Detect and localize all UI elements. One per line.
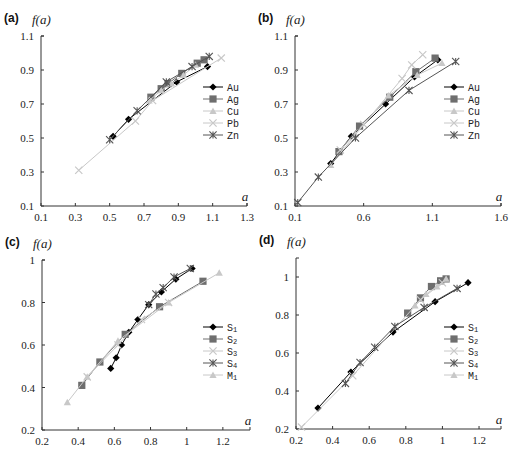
- panel-label: (d): [259, 233, 274, 247]
- legend-marker: [209, 83, 216, 90]
- y-tick-label: 0.3: [274, 166, 288, 178]
- y-tick-label: 1.1: [20, 30, 34, 42]
- series-s2: [78, 278, 206, 389]
- x-tick-label: 0.3: [68, 211, 82, 223]
- legend-label: Cu: [227, 107, 239, 118]
- legend-label: S4: [227, 359, 237, 370]
- y-tick-label: 0.6: [21, 339, 35, 351]
- legend-marker: [209, 335, 216, 342]
- y-tick-label: 0.2: [21, 424, 35, 436]
- legend-item: Ag: [203, 95, 239, 106]
- chart-panel-c: (c)f(a)0.20.40.60.811.20.20.40.60.81aS1S…: [5, 235, 252, 447]
- y-tick-label: 0.7: [20, 98, 34, 110]
- legend-item: Zn: [444, 131, 480, 142]
- x-tick-label: 1.3: [240, 211, 254, 223]
- legend-item: S2: [444, 335, 478, 346]
- data-point-marker: [419, 51, 426, 58]
- legend-label: Ag: [468, 95, 480, 106]
- series-line: [345, 288, 457, 383]
- data-point-marker: [342, 380, 349, 387]
- legend-item: Ag: [444, 95, 480, 106]
- legend-item: Pb: [203, 119, 239, 130]
- x-tick-label: 0.2: [289, 434, 303, 446]
- data-point-marker: [399, 75, 406, 82]
- series-s1: [314, 279, 471, 412]
- legend-item: Zn: [203, 131, 239, 142]
- x-tick-label: 0.6: [357, 211, 371, 223]
- legend-item: Cu: [444, 107, 480, 118]
- legend: AuAgCuPbZn: [203, 83, 239, 142]
- series-line: [67, 273, 219, 403]
- series-pb: [75, 55, 225, 174]
- y-axis-title: f(a): [286, 12, 305, 27]
- data-point-marker: [405, 87, 412, 94]
- x-tick-label: 0.1: [288, 211, 302, 223]
- data-point-marker: [464, 279, 471, 286]
- y-tick-label: 0.9: [274, 64, 288, 76]
- series-line: [298, 62, 456, 203]
- data-point-marker: [152, 290, 159, 297]
- data-point-marker: [132, 117, 139, 124]
- legend-item: S3: [444, 347, 478, 358]
- legend-marker: [209, 323, 216, 330]
- y-axis-title: f(a): [33, 236, 52, 251]
- y-tick-label: 1: [284, 271, 290, 283]
- series-s3: [298, 279, 446, 431]
- x-tick-label: 1.1: [206, 211, 220, 223]
- chart-panel-d: (d)f(a)0.20.40.60.811.20.20.40.60.81aS1S…: [259, 233, 503, 446]
- series-line: [87, 303, 168, 377]
- x-tick-label: 1.2: [472, 434, 486, 446]
- y-axis-title: f(a): [32, 12, 51, 27]
- legend-item: Pb: [444, 119, 480, 130]
- series-m1: [64, 269, 223, 405]
- y-tick-label: 1.1: [274, 30, 288, 42]
- legend-item: S2: [203, 335, 237, 346]
- legend-item: S1: [444, 323, 478, 334]
- series-s3: [84, 299, 173, 381]
- legend-marker: [450, 95, 457, 102]
- y-tick-label: 0.9: [20, 64, 34, 76]
- data-point-marker: [408, 61, 415, 68]
- panel-label: (c): [5, 235, 20, 249]
- x-tick-label: 0.4: [326, 434, 340, 446]
- data-point-marker: [78, 382, 85, 389]
- y-tick-label: 0.4: [275, 385, 289, 397]
- series-au: [110, 63, 212, 140]
- legend-label: S3: [468, 347, 478, 358]
- x-tick-label: 1.2: [216, 435, 230, 447]
- legend: S1S2S3S4M1: [203, 323, 237, 382]
- legend: S1S2S3S4M1: [444, 323, 478, 382]
- x-tick-label: 0.8: [144, 435, 158, 447]
- x-tick-label: 1.1: [425, 211, 439, 223]
- chart-panel-a: (a)f(a)0.10.30.50.70.91.11.30.10.30.50.7…: [4, 11, 254, 223]
- x-axis-title: a: [242, 189, 249, 204]
- x-axis-title: a: [496, 189, 503, 204]
- legend-label: Pb: [468, 119, 480, 130]
- data-point-marker: [114, 337, 121, 343]
- legend-label: Zn: [468, 131, 480, 142]
- data-point-marker: [431, 55, 438, 62]
- legend-label: Cu: [468, 107, 480, 118]
- y-tick-label: 1: [30, 254, 36, 266]
- legend-item: S3: [203, 347, 237, 358]
- data-point-marker: [453, 285, 460, 292]
- y-axis-title: f(a): [287, 234, 306, 249]
- data-point-marker: [107, 365, 114, 372]
- data-point-marker: [113, 354, 120, 361]
- y-tick-label: 0.1: [20, 200, 34, 212]
- legend-label: S4: [468, 359, 478, 370]
- legend-marker: [450, 83, 457, 90]
- legend-label: Au: [227, 83, 239, 94]
- x-tick-label: 1: [184, 435, 190, 447]
- x-tick-label: 0.9: [171, 211, 185, 223]
- x-axis-title: a: [496, 412, 503, 427]
- legend-item: S4: [203, 359, 237, 370]
- series-line: [113, 67, 207, 137]
- chart-canvas: (a)f(a)0.10.30.50.70.91.11.30.10.30.50.7…: [0, 0, 518, 457]
- legend-item: M1: [203, 371, 237, 382]
- x-tick-label: 0.6: [362, 434, 376, 446]
- legend-item: S1: [203, 323, 237, 334]
- legend-label: Ag: [227, 95, 239, 106]
- x-tick-label: 0.4: [71, 435, 85, 447]
- data-point-marker: [356, 359, 363, 366]
